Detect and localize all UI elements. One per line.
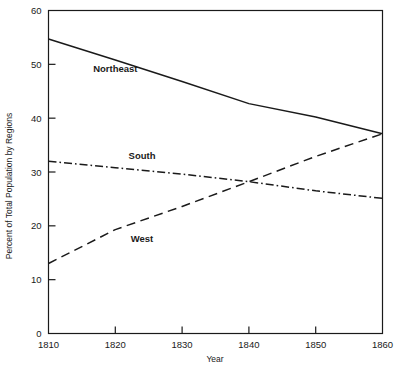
series-label-south: South	[129, 150, 156, 161]
chart-container: 0102030405060 181018201830184018501860 N…	[0, 0, 394, 373]
y-tick-label: 10	[31, 274, 42, 285]
series-label-northeast: Northeast	[93, 63, 138, 74]
x-tick-label: 1810	[38, 339, 59, 350]
y-axis-title: Percent of Total Population by Regions	[4, 113, 14, 259]
y-tick-label: 20	[31, 220, 42, 231]
y-tick-label: 40	[31, 113, 42, 124]
x-tick-label: 1820	[105, 339, 126, 350]
y-tick-label: 50	[31, 59, 42, 70]
x-tick-label: 1840	[238, 339, 259, 350]
y-tick-label: 30	[31, 167, 42, 178]
chart-background	[0, 0, 394, 373]
y-tick-label: 0	[36, 328, 41, 339]
series-label-west: West	[131, 233, 154, 244]
x-tick-label: 1850	[305, 339, 326, 350]
x-tick-label: 1830	[172, 339, 193, 350]
population-line-chart: 0102030405060 181018201830184018501860 N…	[0, 0, 394, 373]
x-tick-label: 1860	[372, 339, 393, 350]
y-tick-label: 60	[31, 5, 42, 16]
x-axis-title: Year	[206, 354, 223, 364]
